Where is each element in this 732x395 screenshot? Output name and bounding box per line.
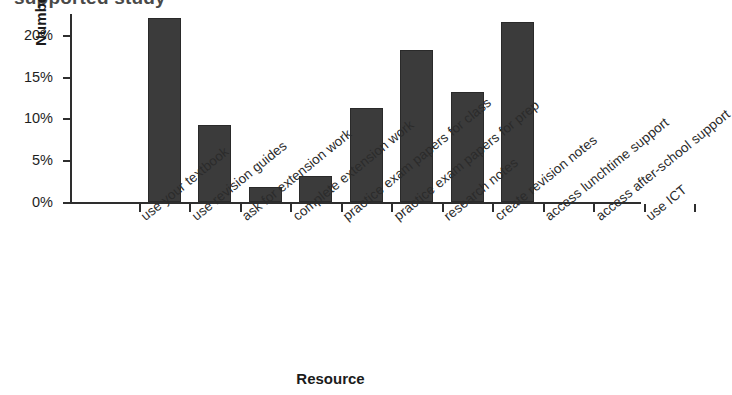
x-tick (694, 204, 696, 212)
x-axis-title: Resource (0, 370, 661, 387)
x-category-label: use ICT (643, 182, 690, 224)
x-category-label: use your textbook (138, 144, 232, 224)
